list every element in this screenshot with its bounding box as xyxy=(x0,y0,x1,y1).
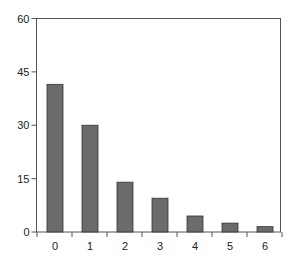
x-tick-label: 6 xyxy=(262,240,268,252)
bar-0 xyxy=(47,84,63,232)
bar-chart: 015304560 0123456 xyxy=(0,0,294,262)
y-tick-label: 45 xyxy=(17,66,29,78)
bar-4 xyxy=(187,216,203,232)
x-tick-label: 0 xyxy=(52,240,58,252)
bar-5 xyxy=(222,223,238,232)
y-axis: 015304560 xyxy=(17,13,36,239)
x-tick-label: 2 xyxy=(122,240,128,252)
y-tick-label: 15 xyxy=(17,173,29,185)
y-tick-label: 0 xyxy=(23,226,29,238)
bar-3 xyxy=(152,198,168,232)
y-tick-label: 60 xyxy=(17,13,29,25)
x-axis: 0123456 xyxy=(37,232,282,252)
bar-6 xyxy=(257,227,273,232)
bar-1 xyxy=(82,125,98,232)
x-tick-label: 5 xyxy=(227,240,233,252)
x-tick-label: 3 xyxy=(157,240,163,252)
bar-2 xyxy=(117,182,133,232)
bars xyxy=(47,84,273,232)
y-tick-label: 30 xyxy=(17,119,29,131)
x-tick-label: 4 xyxy=(192,240,198,252)
x-tick-label: 1 xyxy=(87,240,93,252)
